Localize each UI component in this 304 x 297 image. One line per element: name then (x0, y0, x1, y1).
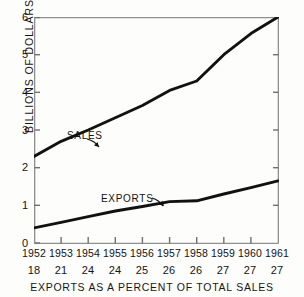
y-tick-marks (35, 18, 41, 244)
series-line-exports (34, 181, 278, 228)
y-tick-label: 3 (14, 125, 28, 136)
y-tick-label: 6 (14, 12, 28, 23)
x-tick-label-percent: 18 (22, 265, 46, 276)
y-tick-label: 2 (14, 162, 28, 173)
y-tick-label: 4 (14, 87, 28, 98)
x-tick-label-percent: 21 (49, 265, 73, 276)
x-tick-label-percent: 25 (130, 265, 154, 276)
x-tick-marks (61, 237, 251, 244)
x-tick-label-percent: 27 (238, 265, 262, 276)
series-label-exports: EXPORTS (101, 193, 154, 204)
x-tick-label-percent: 27 (211, 265, 235, 276)
series-label-sales: SALES (67, 130, 103, 141)
x-tick-label-year: 1961 (260, 248, 294, 259)
x-axis-title: EXPORTS AS A PERCENT OF TOTAL SALES (0, 281, 304, 293)
x-tick-label-percent: 26 (157, 265, 181, 276)
x-tick-label-percent: 24 (103, 265, 127, 276)
y-tick-label: 1 (14, 200, 28, 211)
y-tick-label: 5 (14, 49, 28, 60)
x-tick-label-percent: 26 (184, 265, 208, 276)
x-tick-label-percent: 27 (265, 265, 289, 276)
x-tick-label-percent: 24 (76, 265, 100, 276)
chart-figure: BILLIONS OF DOLLARS 6 5 4 3 2 1 0 (0, 0, 304, 297)
